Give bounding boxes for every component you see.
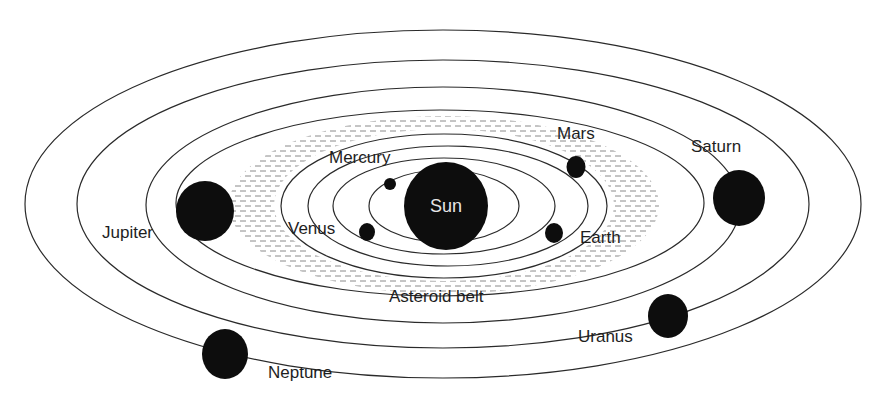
label-earth: Earth (580, 228, 621, 247)
planet-saturn (713, 170, 765, 226)
planet-earth (545, 223, 563, 243)
planet-mercury (384, 178, 396, 190)
planet-mars (567, 156, 586, 178)
label-jupiter: Jupiter (102, 223, 153, 242)
label-saturn: Saturn (691, 137, 741, 156)
asteroid-belt-label: Asteroid belt (389, 287, 484, 306)
planet-venus (359, 223, 375, 241)
solar-system-diagram: Sun MercuryVenusEarthMarsJupiterSaturnUr… (0, 0, 891, 403)
label-venus: Venus (288, 219, 335, 238)
label-neptune: Neptune (268, 363, 332, 382)
sun: Sun (404, 162, 488, 250)
planet-neptune (202, 329, 248, 379)
planet-jupiter (176, 181, 234, 241)
label-uranus: Uranus (578, 327, 633, 346)
diagram-canvas: Sun MercuryVenusEarthMarsJupiterSaturnUr… (0, 0, 891, 403)
sun-label: Sun (430, 196, 462, 216)
label-mars: Mars (557, 124, 595, 143)
planet-uranus (648, 294, 688, 338)
label-mercury: Mercury (329, 148, 391, 167)
